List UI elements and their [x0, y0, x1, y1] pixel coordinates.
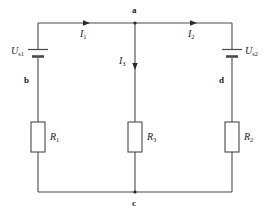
node-label-c: c: [132, 199, 136, 208]
right-source-label: Us2: [245, 46, 258, 56]
junction-dot-c: [133, 190, 136, 193]
middle-resistor-label: R3: [147, 132, 156, 142]
left-source-subscript: s1: [18, 50, 24, 57]
right-resistor-label: R2: [244, 132, 253, 142]
circuit-diagram: a b c d Us1 Us2 R1 R3 R2 I1 I2 I3: [0, 0, 272, 222]
middle-resistor-body: [128, 122, 142, 152]
left-source-label: Us1: [11, 46, 24, 56]
current-2-arrow: [190, 20, 197, 25]
current-2-label: I2: [188, 29, 195, 39]
current-3-arrow: [132, 63, 137, 70]
right-resistor-body: [225, 122, 239, 152]
circuit-schematic-svg: [0, 0, 272, 222]
node-label-d: d: [219, 76, 224, 85]
node-label-a: a: [132, 6, 137, 15]
left-resistor-label: R1: [50, 132, 59, 142]
node-label-b: b: [24, 76, 29, 85]
current-1-subscript: 1: [83, 33, 86, 40]
current-1-label: I1: [80, 29, 87, 39]
junction-dot-a: [133, 21, 136, 24]
right-source-subscript: s2: [252, 50, 258, 57]
current-3-label: I3: [119, 56, 126, 66]
middle-resistor-subscript: 3: [153, 136, 156, 143]
current-1-arrow: [83, 20, 90, 25]
current-2-subscript: 2: [191, 33, 194, 40]
left-resistor-subscript: 1: [56, 136, 59, 143]
right-resistor-subscript: 2: [250, 136, 253, 143]
left-resistor-body: [31, 122, 45, 152]
current-3-subscript: 3: [122, 60, 125, 67]
